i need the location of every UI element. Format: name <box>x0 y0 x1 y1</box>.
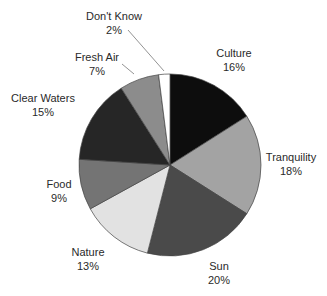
label-culture: Culture 16% <box>216 46 251 74</box>
label-food-pct: 9% <box>46 191 71 205</box>
label-food: Food 9% <box>46 177 71 205</box>
label-nature: Nature 13% <box>71 245 104 273</box>
label-fresh-air-name: Fresh Air <box>75 50 119 64</box>
label-tranquility-pct: 18% <box>266 164 316 178</box>
label-nature-name: Nature <box>71 245 104 259</box>
label-sun-pct: 20% <box>208 273 230 287</box>
label-sun-name: Sun <box>208 259 230 273</box>
label-clear-waters-name: Clear Waters <box>11 91 75 105</box>
label-clear-waters-pct: 15% <box>11 105 75 119</box>
label-fresh-air-pct: 7% <box>75 64 119 78</box>
label-dont-know-pct: 2% <box>86 23 142 37</box>
label-fresh-air: Fresh Air 7% <box>75 50 119 78</box>
label-tranquility-name: Tranquility <box>266 150 316 164</box>
label-nature-pct: 13% <box>71 259 104 273</box>
label-culture-name: Culture <box>216 46 251 60</box>
label-culture-pct: 16% <box>216 60 251 74</box>
label-sun: Sun 20% <box>208 259 230 287</box>
label-food-name: Food <box>46 177 71 191</box>
label-dont-know-name: Don't Know <box>86 9 142 23</box>
pie-slices <box>79 74 261 256</box>
pie-chart <box>0 0 327 296</box>
leader-line-fresh-air <box>122 64 134 74</box>
label-tranquility: Tranquility 18% <box>266 150 316 178</box>
label-dont-know: Don't Know 2% <box>86 9 142 37</box>
label-clear-waters: Clear Waters 15% <box>11 91 75 119</box>
